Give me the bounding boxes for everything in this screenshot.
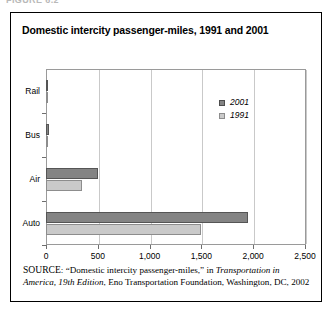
x-tick-mark <box>201 245 202 249</box>
bar-bus-1991 <box>46 136 48 147</box>
legend-swatch-icon <box>219 100 225 106</box>
figure-number-text: FIGURE 6.2 <box>6 0 126 5</box>
x-axis-tick-label: 2,500 <box>294 251 315 261</box>
y-axis-category-bus: Bus <box>25 130 40 140</box>
legend-swatch-icon <box>219 113 225 119</box>
source-text-b: , Eno Transportation Foundation, Washing… <box>104 277 310 287</box>
y-axis-category-auto: Auto <box>23 218 41 228</box>
chart-legend: 20011991 <box>219 97 249 123</box>
figure-number-strip: FIGURE 6.2 <box>6 0 126 6</box>
source-text-a: : “Domestic intercity passenger-miles,” … <box>61 265 216 275</box>
source-label: SOURCE <box>23 264 61 275</box>
x-axis-tick-label: 0 <box>44 251 49 261</box>
legend-item-2001: 2001 <box>219 97 249 108</box>
x-tick-mark <box>46 245 47 249</box>
x-axis-tick-label: 2,000 <box>243 251 264 261</box>
bar-rail-1991 <box>46 92 48 103</box>
bar-rail-2001 <box>46 80 48 91</box>
bar-air-1991 <box>46 180 82 191</box>
legend-label: 2001 <box>230 98 249 107</box>
y-tick-mark <box>42 201 46 202</box>
gridline-2000 <box>254 70 255 244</box>
x-axis-tick-label: 1,000 <box>139 251 160 261</box>
legend-label: 1991 <box>230 111 249 120</box>
source-note: SOURCE: “Domestic intercity passenger-mi… <box>23 264 311 288</box>
y-axis-category-air: Air <box>30 174 40 184</box>
x-tick-mark <box>98 245 99 249</box>
y-axis-category-rail: Rail <box>25 86 40 96</box>
legend-item-1991: 1991 <box>219 110 249 121</box>
x-tick-mark <box>305 245 306 249</box>
y-tick-mark <box>42 113 46 114</box>
bar-auto-1991 <box>46 224 201 235</box>
x-tick-mark <box>150 245 151 249</box>
bar-auto-2001 <box>46 212 248 223</box>
chart-plot-wrapper: RailBusAirAuto 05001,0001,5002,0002,500 … <box>11 13 323 258</box>
x-axis-tick-label: 1,500 <box>191 251 212 261</box>
x-axis-tick-label: 500 <box>91 251 105 261</box>
figure-card: Domestic intercity passenger-miles, 1991… <box>10 12 322 302</box>
y-tick-mark <box>42 157 46 158</box>
x-tick-mark <box>253 245 254 249</box>
gridline-2500 <box>306 70 307 244</box>
bar-bus-2001 <box>46 124 49 135</box>
bar-air-2001 <box>46 168 98 179</box>
